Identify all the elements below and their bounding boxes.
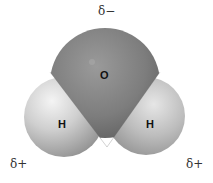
hydrogen-right-label: H — [146, 118, 154, 130]
hydrogen-left-label: H — [58, 118, 66, 130]
hydrogen-right-partial-charge: δ+ — [186, 158, 203, 170]
water-molecule-diagram: O H H δ− δ+ δ+ — [0, 0, 213, 183]
hydrogen-left-partial-charge: δ+ — [10, 158, 27, 170]
molecule-svg: O H H — [0, 0, 213, 183]
oxygen-label: O — [100, 69, 109, 81]
oxygen-partial-charge: δ− — [98, 5, 115, 17]
